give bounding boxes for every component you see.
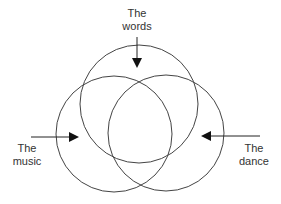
label-music-line2: music [13,155,42,167]
label-dance-line2: dance [239,155,269,167]
label-music-line1: The [18,142,37,154]
arrow-right-icon [69,132,79,142]
arrow-music [31,132,79,142]
arrow-words [132,37,142,68]
label-words-line2: words [121,20,152,32]
venn-diagram: The words The music The dance [0,0,281,204]
label-words: The words [121,7,152,32]
arrow-dance [201,131,260,141]
circle-music [56,76,172,192]
arrow-left-icon [201,131,211,141]
label-dance: The dance [239,142,269,167]
label-dance-line1: The [245,142,264,154]
arrow-down-icon [132,58,142,68]
label-words-line1: The [128,7,147,19]
circle-dance [108,75,224,191]
label-music: The music [13,142,42,167]
